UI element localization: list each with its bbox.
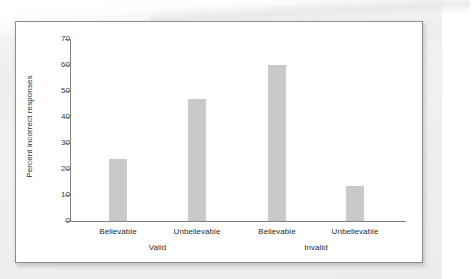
y-tick-mark (65, 169, 70, 170)
category-label: Unbelievable (310, 227, 400, 236)
y-tick-70: 70 (16, 39, 70, 40)
y-axis-line (70, 39, 71, 222)
y-tick-label: 0 (26, 217, 70, 225)
category-label: Believable (73, 227, 163, 236)
plot-area: 010203040506070 Percent incorrect respon… (16, 22, 424, 264)
category-label: Believable (232, 227, 322, 236)
y-tick-mark (65, 221, 70, 222)
x-axis-line (70, 221, 406, 222)
bar (346, 186, 364, 221)
bar (109, 159, 127, 221)
y-tick-mark (65, 143, 70, 144)
bar (188, 99, 206, 221)
y-tick-mark (65, 65, 70, 66)
figure-panel: 010203040506070 Percent incorrect respon… (15, 21, 423, 263)
y-axis-title: Percent incorrect responses (25, 52, 34, 202)
group-label: Invalid (271, 243, 361, 252)
y-tick-mark (65, 117, 70, 118)
y-tick-label: 70 (26, 35, 70, 43)
y-tick-mark (65, 39, 70, 40)
y-tick-mark (65, 91, 70, 92)
bar (268, 65, 286, 221)
category-label: Unbelievable (152, 227, 242, 236)
y-tick-0: 0 (16, 221, 70, 222)
group-label: Valid (113, 243, 203, 252)
y-tick-mark (65, 195, 70, 196)
